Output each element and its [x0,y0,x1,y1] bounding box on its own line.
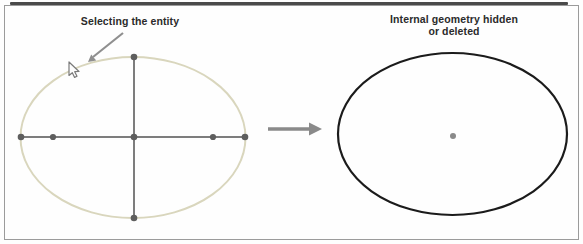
transition-arrowhead-icon [309,123,322,136]
axis-endpoint-right[interactable] [242,134,249,141]
right-caption: Internal geometry hidden or deleted [364,13,544,37]
cursor-icon [69,62,79,77]
figure-canvas: Selecting the entity Internal geometry h… [0,0,583,244]
right-caption-line2: or deleted [364,25,544,37]
caption-leader-line [93,33,123,57]
axis-endpoint-top[interactable] [131,54,138,61]
center-point[interactable] [131,134,138,141]
left-caption: Selecting the entity [70,15,190,27]
right-caption-line1: Internal geometry hidden [364,13,544,25]
result-center-point[interactable] [450,133,456,139]
focus-point-left[interactable] [50,134,56,140]
focus-point-right[interactable] [210,134,216,140]
axis-endpoint-left[interactable] [18,134,25,141]
axis-endpoint-bottom[interactable] [131,215,138,222]
